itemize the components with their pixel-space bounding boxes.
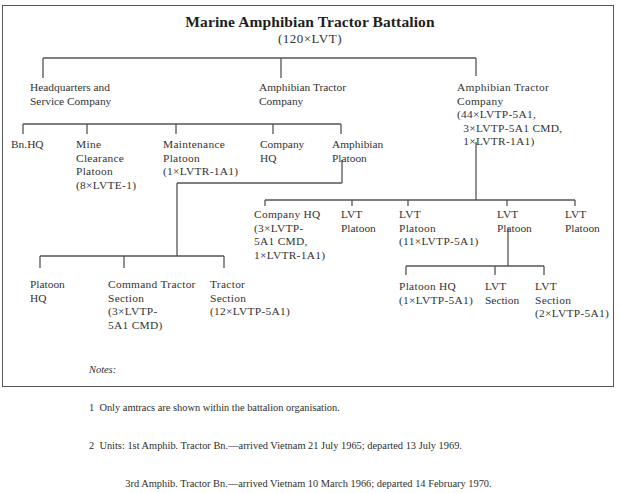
notes-block: Notes: 1 Only amtracs are shown within t…: [89, 339, 492, 493]
node-lvt-platoon-1: LVT Platoon: [341, 208, 376, 235]
node-bn-hq: Bn.HQ: [11, 138, 44, 152]
node-hq-service-company: Headquarters and Service Company: [30, 81, 111, 108]
node-lvt-section-1: LVT Section: [485, 280, 519, 307]
node-maintenance-platoon: Maintenance Platoon (1×LVTR-1A1): [163, 138, 238, 179]
node-lvt-platoon-2: LVT Platoon (11×LVTP-5A1): [399, 208, 479, 249]
node-lvt-platoon-3: LVT Platoon: [497, 208, 532, 235]
node-tractor-section: Tractor Section (12×LVTP-5A1): [210, 278, 290, 319]
node-platoon-hq-a: Platoon HQ: [30, 278, 65, 305]
node-lvt-section-2: LVT Section (2×LVTP-5A1): [535, 280, 609, 321]
node-amphibian-tractor-company-equipped: Amphibian Tractor Company (44×LVTP-5A1, …: [457, 81, 562, 149]
node-mine-clearance-platoon: Mine Clearance Platoon (8×LVTE-1): [76, 138, 136, 192]
note-item-2-continued: 3rd Amphib. Tractor Bn.—arrived Vietnam …: [89, 478, 492, 491]
notes-heading: Notes:: [89, 364, 492, 377]
note-item-2: 2 Units: 1st Amphib. Tractor Bn.—arrived…: [89, 440, 492, 453]
node-company-hq-b: Company HQ (3×LVTP- 5A1 CMD, 1×LVTR-1A1): [254, 208, 325, 262]
node-platoon-hq-b: Platoon HQ (1×LVTP-5A1): [399, 280, 473, 307]
node-lvt-platoon-4: LVT Platoon: [565, 208, 600, 235]
note-item-1: 1 Only amtracs are shown within the batt…: [89, 402, 492, 415]
node-command-tractor-section: Command Tractor Section (3×LVTP- 5A1 CMD…: [108, 278, 196, 332]
node-amphibian-tractor-company: Amphibian Tractor Company: [259, 81, 346, 108]
node-company-hq: Company HQ: [260, 138, 304, 165]
node-amphibian-platoon: Amphibian Platoon: [332, 138, 383, 165]
